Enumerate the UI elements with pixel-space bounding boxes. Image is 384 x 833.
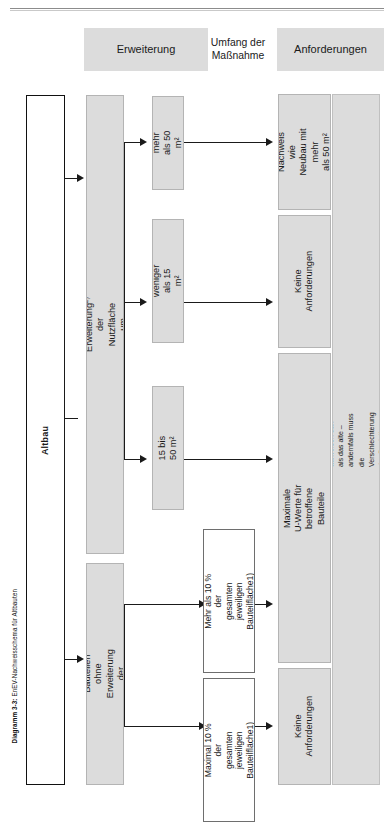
arrow-mehr50-to-nachweis <box>266 138 273 146</box>
node-nachweis-wie-neubau-label: Nachweis wie Neubau mit mehr als 50 m² <box>278 127 331 178</box>
node-mehr-als-10-prozent: Mehr als 10 % der gesamten jeweiligen Ba… <box>203 529 255 673</box>
node-weniger-als-15-label: weniger als 15 m² <box>152 265 184 297</box>
arrow-erweiterung-to-weniger15 <box>140 298 147 306</box>
connector-erweiterung-to-mehr50 <box>124 142 141 143</box>
column-header-erweiterung: Erweiterung <box>84 28 208 71</box>
figure-caption-prefix: Diagramm 3-3: <box>11 698 18 743</box>
node-erweiterung-nutzflaeche-label: Erweiterung2) der Nutzfläche um <box>86 297 124 352</box>
footnote-text: Die energetische Qualität des Gebäudes d… <box>332 412 380 467</box>
connector-root-to-eingriffe <box>64 659 78 660</box>
node-eingriffe-bauteile-label: Eingriffe an Bauteilen ohne Erweiterung … <box>86 649 124 698</box>
column-header-erweiterung-label: Erweiterung <box>117 43 176 56</box>
node-keine-anforderungen-1-label: Keine Anforderungen <box>293 251 315 312</box>
connector-eingriffe-spine <box>124 604 125 727</box>
arrow-weniger15-to-keine1 <box>266 298 273 306</box>
footnote-line-2: U-Wert aufweisen darf als das alte – and… <box>332 412 380 467</box>
figure-page: Diagramm 3-3: EnEV-Nachweisschema für Al… <box>0 0 384 833</box>
connector-erweiterung-spine <box>124 142 125 460</box>
arrow-root-to-erweiterung <box>77 174 84 182</box>
column-header-anforderungen: Anforderungen <box>277 28 384 71</box>
arrow-root-to-eingriffe <box>77 655 84 663</box>
connector-erweiterung-to-weniger15 <box>124 302 141 303</box>
node-weniger-als-15: weniger als 15 m² <box>152 219 184 343</box>
arrow-15bis50-to-uwerte <box>266 455 273 463</box>
node-altbau-label: Altbau <box>40 425 51 454</box>
figure-caption-text: EnEV-Nachweisschema für Altbauten <box>11 589 18 697</box>
connector-root-stem <box>64 418 78 419</box>
node-eingriffe-bauteile: Eingriffe an Bauteilen ohne Erweiterung … <box>86 563 124 785</box>
connector-weniger15-to-keine1 <box>184 302 267 303</box>
connector-eingriffe-to-mehr10 <box>124 604 200 605</box>
page-top-rule-secondary <box>10 10 384 11</box>
node-mehr-als-50: mehr als 50 m² <box>152 96 184 190</box>
node-nachweis-wie-neubau: Nachweis wie Neubau mit mehr als 50 m² <box>278 94 331 210</box>
connector-erweiterung-to-15bis50 <box>124 459 141 460</box>
connector-root-to-erweiterung <box>64 178 78 179</box>
page-top-rule <box>10 8 384 9</box>
node-keine-anforderungen-2: Keine Anforderungen <box>278 668 331 785</box>
node-15-bis-50-label: 15 bis 50 m² <box>157 433 179 463</box>
figure-caption: Diagramm 3-3: EnEV-Nachweisschema für Al… <box>11 444 18 744</box>
node-keine-anforderungen-2-label: Keine Anforderungen <box>293 696 315 757</box>
node-mehr-als-50-label: mehr als 50 m² <box>152 128 184 158</box>
arrow-max10-to-keine2 <box>266 722 273 730</box>
column-header-umfang-label: Umfang der Maßnahme <box>211 37 265 62</box>
node-erweiterung-nutzflaeche: Erweiterung2) der Nutzfläche um <box>86 95 124 554</box>
column-header-umfang: Umfang der Maßnahme <box>200 26 276 73</box>
footnote-block: Die energetische Qualität des Gebäudes d… <box>332 94 380 785</box>
node-mehr-als-10-prozent-label: Mehr als 10 % der gesamten jeweiligen Ba… <box>203 573 255 630</box>
connector-15bis50-to-uwerte <box>184 459 267 460</box>
arrow-erweiterung-to-mehr50 <box>140 138 147 146</box>
node-keine-anforderungen-1: Keine Anforderungen <box>278 215 331 348</box>
connector-mehr50-to-nachweis <box>184 142 267 143</box>
node-maximal-10-prozent-label: Maximal 10 % der gesamten jeweiligen Bau… <box>203 722 255 779</box>
connector-eingriffe-to-max10 <box>124 726 200 727</box>
node-15-bis-50: 15 bis 50 m² <box>152 386 184 510</box>
node-maximale-u-werte: Maximale U-Werte für betroffene Bauteile <box>278 353 331 663</box>
arrow-mehr10-to-uwerte <box>266 600 273 608</box>
node-altbau: Altbau <box>26 95 65 785</box>
node-maximal-10-prozent: Maximal 10 % der gesamten jeweiligen Bau… <box>203 678 255 822</box>
arrow-erweiterung-to-15bis50 <box>140 455 147 463</box>
column-header-anforderungen-label: Anforderungen <box>294 43 367 56</box>
node-maximale-u-werte-label: Maximale U-Werte für betroffene Bauteile <box>282 483 327 534</box>
